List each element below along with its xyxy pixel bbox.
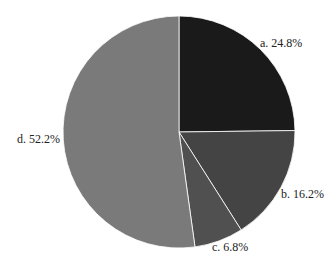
pie-slice-d [63,16,195,248]
slice-label-c: c. 6.8% [212,240,248,255]
slice-label-b: b. 16.2% [281,187,324,202]
pie-slice-a [179,16,295,132]
slice-label-a: a. 24.8% [260,36,302,51]
slice-label-d: d. 52.2% [17,132,60,147]
